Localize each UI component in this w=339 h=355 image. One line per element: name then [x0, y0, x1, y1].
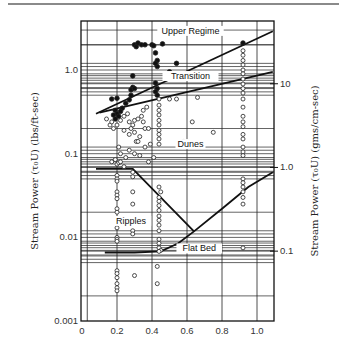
data-point-open: [241, 195, 245, 199]
y-axis-title-right: Stream Power (τ₀U) (gms/cm-sec): [309, 85, 320, 256]
data-point-open: [241, 137, 245, 141]
data-point-open: [115, 276, 119, 280]
data-point-open: [152, 156, 156, 160]
data-point-open: [138, 154, 142, 158]
region-label: Transition: [171, 71, 210, 81]
y-tick-label-left: 1.0: [65, 64, 78, 75]
data-point-open: [157, 223, 161, 227]
data-point-open: [157, 97, 161, 101]
data-point-filled: [241, 41, 246, 46]
data-point-open: [115, 289, 119, 293]
data-point-open: [190, 120, 194, 124]
data-point-open: [157, 237, 161, 241]
data-point-open: [241, 82, 245, 86]
data-point-filled: [160, 42, 165, 47]
x-tick-label: 0.6: [180, 325, 193, 336]
data-point-open: [155, 282, 159, 286]
region-label: Dunes: [177, 139, 204, 149]
data-point-open: [241, 114, 245, 118]
data-point-open: [157, 185, 161, 189]
x-tick-label: 0: [79, 325, 84, 336]
data-point-filled: [174, 61, 179, 66]
data-point-filled: [129, 93, 134, 98]
data-point-open: [241, 202, 245, 206]
data-point-open: [157, 241, 161, 245]
stream-power-chart: Upper RegimeTransitionDunesRipplesFlat B…: [0, 0, 339, 355]
region-label: Flat Bed: [182, 243, 216, 253]
x-tick-label: 0.2: [110, 325, 123, 336]
data-point-open: [133, 274, 137, 278]
data-point-open: [131, 202, 135, 206]
data-point-open: [115, 179, 119, 183]
data-point-open: [147, 127, 151, 131]
data-point-open: [241, 190, 245, 194]
data-point-open: [157, 132, 161, 136]
data-point-open: [241, 132, 245, 136]
data-point-open: [157, 208, 161, 212]
data-point-open: [126, 112, 130, 116]
data-point-open: [148, 142, 152, 146]
data-point-open: [241, 177, 245, 181]
data-point-filled: [109, 97, 114, 102]
data-point-open: [157, 199, 161, 203]
data-point-open: [241, 68, 245, 72]
data-point-open: [105, 117, 109, 121]
data-point-open: [159, 190, 163, 194]
data-point-open: [241, 53, 245, 57]
data-point-open: [115, 272, 119, 276]
data-point-open: [119, 118, 123, 122]
y-tick-label-left: 0.1: [65, 148, 78, 159]
x-tick-label: 1.0: [250, 325, 263, 336]
data-point-open: [157, 214, 161, 218]
data-point-open: [241, 181, 245, 185]
data-point-open: [241, 63, 245, 67]
data-point-open: [241, 77, 245, 81]
data-point-open: [129, 127, 133, 131]
y-tick-label-right: 0.1: [280, 245, 293, 256]
data-point-open: [115, 123, 119, 127]
data-point-filled: [127, 98, 132, 103]
x-tick-label: 0.8: [215, 325, 228, 336]
data-point-open: [127, 120, 131, 124]
data-point-open: [127, 132, 131, 136]
region-labels: Upper RegimeTransitionDunesRipplesFlat B…: [111, 26, 224, 254]
data-point-open: [119, 160, 123, 164]
region-label: Ripples: [116, 216, 147, 226]
data-point-open: [124, 156, 128, 160]
data-point-open: [241, 185, 245, 189]
data-point-filled: [153, 81, 158, 86]
data-point-open: [110, 120, 114, 124]
y-tick-label-left: 0.01: [60, 231, 79, 242]
y-tick-label-right: 1.0: [280, 161, 293, 172]
data-point-open: [145, 105, 149, 109]
data-point-open: [241, 120, 245, 124]
data-point-open: [133, 130, 137, 134]
data-point-open: [127, 148, 131, 152]
y-tick-label-left: 0.001: [54, 315, 78, 326]
data-point-open: [241, 87, 245, 91]
data-point-open: [168, 97, 172, 101]
y-tick-label-right: 10: [280, 78, 291, 89]
y-axis-title-left: Stream Power (τ₀U) (lbs/ft-sec): [29, 92, 40, 250]
data-point-open: [241, 125, 245, 129]
data-point-open: [157, 142, 161, 146]
data-point-open: [141, 120, 145, 124]
data-point-open: [196, 95, 200, 99]
data-point-open: [241, 58, 245, 62]
data-point-open: [141, 108, 145, 112]
data-point-open: [133, 152, 137, 156]
data-point-open: [157, 108, 161, 112]
data-point-filled: [153, 51, 158, 56]
data-point-open: [241, 105, 245, 109]
data-point-open: [157, 113, 161, 117]
data-point-open: [157, 218, 161, 222]
data-point-open: [122, 165, 126, 169]
data-point-open: [136, 139, 140, 143]
data-point-open: [115, 239, 119, 243]
data-point-open: [143, 145, 147, 149]
data-point-open: [175, 97, 179, 101]
data-point-open: [157, 118, 161, 122]
data-point-open: [157, 204, 161, 208]
data-point-open: [131, 175, 135, 179]
data-point-filled: [132, 86, 137, 91]
